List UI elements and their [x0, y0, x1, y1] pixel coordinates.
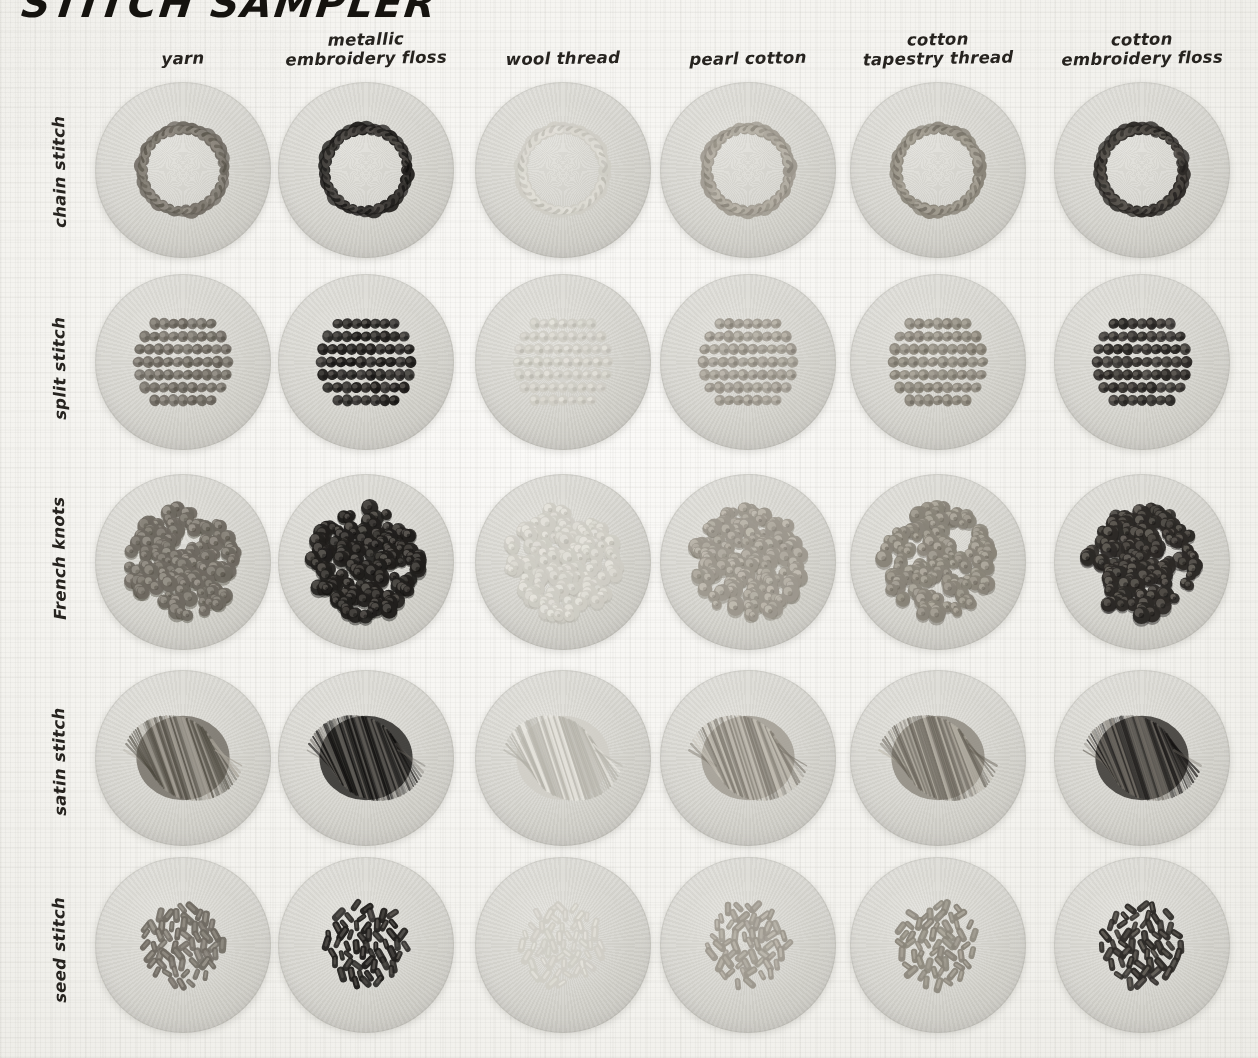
row-header-seed-stitch: seed stitch [50, 897, 70, 1003]
sample-satin-stitch-cotton-tapestry-thread[interactable] [850, 670, 1026, 846]
sample-seed-stitch-wool-thread[interactable] [475, 857, 651, 1033]
column-header-cotton-embroidery-floss: cotton embroidery floss [1032, 28, 1253, 70]
sample-split-stitch-cotton-embroidery-floss[interactable] [1054, 274, 1230, 450]
column-header-cotton-tapestry-thread: cotton tapestry thread [828, 28, 1049, 70]
sample-seed-stitch-cotton-tapestry-thread[interactable] [850, 857, 1026, 1033]
stitch-motif-seeds [660, 857, 836, 1033]
sample-chain-stitch-metallic-embroidery-floss[interactable] [278, 82, 454, 258]
sample-french-knots-cotton-tapestry-thread[interactable] [850, 474, 1026, 650]
stitch-motif-fill-rope [850, 274, 1026, 450]
sample-chain-stitch-yarn[interactable] [95, 82, 271, 258]
stitch-motif-satin [850, 670, 1026, 846]
row-header-split-stitch: split stitch [50, 317, 70, 420]
stitch-motif-satin [95, 670, 271, 846]
sample-chain-stitch-cotton-embroidery-floss[interactable] [1054, 82, 1230, 258]
stitch-motif-ring [660, 82, 836, 258]
page-title: STITCH SAMPLER [19, 0, 440, 26]
stitch-motif-knots [660, 474, 836, 650]
sample-split-stitch-metallic-embroidery-floss[interactable] [278, 274, 454, 450]
sample-split-stitch-pearl-cotton[interactable] [660, 274, 836, 450]
stitch-motif-fill-rope [1054, 274, 1230, 450]
column-header-metallic-embroidery-floss: metallic embroidery floss [256, 28, 477, 70]
sample-seed-stitch-pearl-cotton[interactable] [660, 857, 836, 1033]
stitch-motif-seeds [1054, 857, 1230, 1033]
row-header-french-knots: French knots [50, 497, 70, 620]
stitch-motif-ring [1054, 82, 1230, 258]
stitch-motif-satin [475, 670, 651, 846]
sample-split-stitch-yarn[interactable] [95, 274, 271, 450]
stitch-motif-satin [278, 670, 454, 846]
sample-chain-stitch-wool-thread[interactable] [475, 82, 651, 258]
sample-seed-stitch-yarn[interactable] [95, 857, 271, 1033]
stitch-motif-fill-rope [278, 274, 454, 450]
sample-french-knots-cotton-embroidery-floss[interactable] [1054, 474, 1230, 650]
sample-satin-stitch-cotton-embroidery-floss[interactable] [1054, 670, 1230, 846]
stitch-motif-knots [95, 474, 271, 650]
stitch-motif-seeds [278, 857, 454, 1033]
sample-satin-stitch-pearl-cotton[interactable] [660, 670, 836, 846]
stitch-motif-ring [278, 82, 454, 258]
sample-french-knots-metallic-embroidery-floss[interactable] [278, 474, 454, 650]
sample-satin-stitch-metallic-embroidery-floss[interactable] [278, 670, 454, 846]
sample-french-knots-wool-thread[interactable] [475, 474, 651, 650]
sample-seed-stitch-metallic-embroidery-floss[interactable] [278, 857, 454, 1033]
stitch-motif-knots [1054, 474, 1230, 650]
sample-satin-stitch-wool-thread[interactable] [475, 670, 651, 846]
sample-satin-stitch-yarn[interactable] [95, 670, 271, 846]
stitch-motif-knots [475, 474, 651, 650]
sample-split-stitch-wool-thread[interactable] [475, 274, 651, 450]
stitch-motif-satin [1054, 670, 1230, 846]
sample-seed-stitch-cotton-embroidery-floss[interactable] [1054, 857, 1230, 1033]
sample-split-stitch-cotton-tapestry-thread[interactable] [850, 274, 1026, 450]
stitch-motif-ring [850, 82, 1026, 258]
stitch-motif-fill-rope [660, 274, 836, 450]
row-header-chain-stitch: chain stitch [50, 116, 70, 228]
row-header-satin-stitch: satin stitch [50, 707, 70, 816]
stitch-motif-ring [95, 82, 271, 258]
sample-chain-stitch-cotton-tapestry-thread[interactable] [850, 82, 1026, 258]
stitch-motif-seeds [850, 857, 1026, 1033]
stitch-motif-fill-rope [95, 274, 271, 450]
stitch-motif-knots [850, 474, 1026, 650]
sample-french-knots-pearl-cotton[interactable] [660, 474, 836, 650]
stitch-motif-seeds [95, 857, 271, 1033]
stitch-motif-satin [660, 670, 836, 846]
stitch-motif-knots [278, 474, 454, 650]
stitch-motif-ring [475, 82, 651, 258]
stitch-motif-fill-rope [475, 274, 651, 450]
sample-french-knots-yarn[interactable] [95, 474, 271, 650]
sample-chain-stitch-pearl-cotton[interactable] [660, 82, 836, 258]
stitch-motif-seeds [475, 857, 651, 1033]
